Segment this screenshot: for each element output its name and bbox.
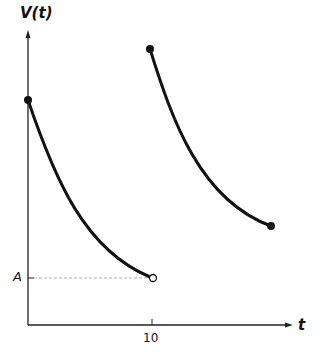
x-axis-arrow-icon	[285, 323, 293, 328]
y-axis-label: V(t)	[20, 4, 53, 22]
curve-segment-2	[150, 49, 271, 226]
open-dot-t10	[150, 275, 157, 282]
curve-segment-1	[28, 100, 150, 277]
closed-dot-end	[267, 222, 275, 230]
x-axis-label: t	[298, 316, 305, 334]
y-axis-arrow-icon	[26, 30, 31, 38]
chart-canvas	[0, 0, 320, 354]
y-tick-label: A	[13, 269, 22, 284]
closed-dot-start	[24, 96, 32, 104]
closed-dot-t10	[146, 45, 154, 53]
x-tick-label: 10	[143, 331, 158, 345]
